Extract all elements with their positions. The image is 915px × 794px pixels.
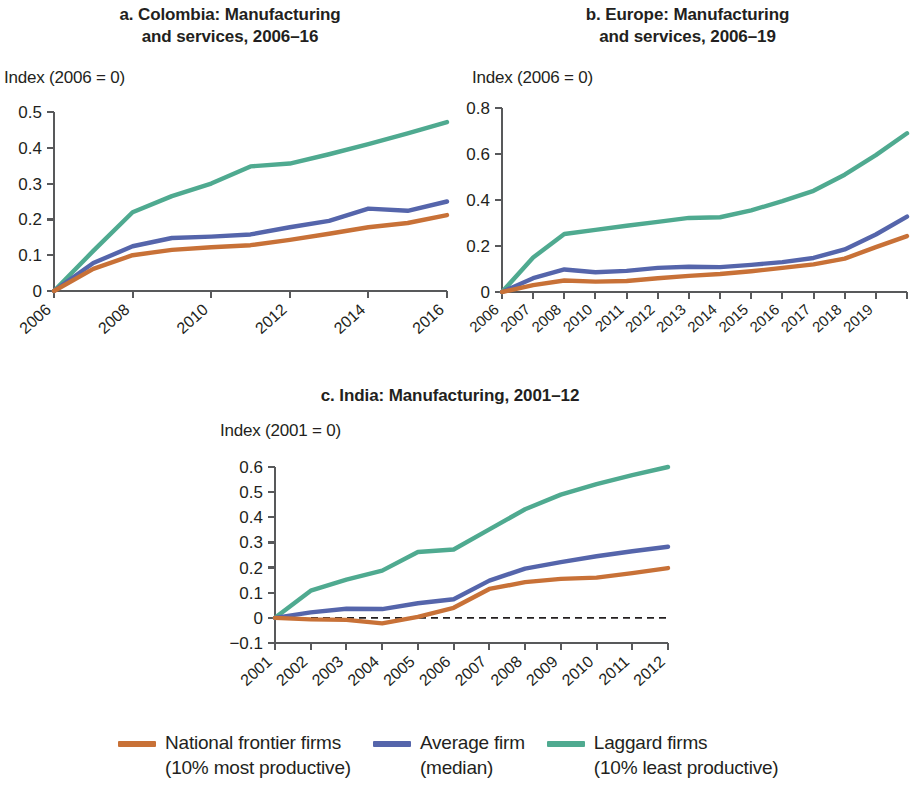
ytick-label: 0.5	[239, 483, 263, 502]
xtick-label: 2012	[622, 301, 658, 336]
xtick-label: 2011	[591, 301, 626, 335]
ytick-label: 0.5	[18, 103, 42, 122]
legend-label-frontier-sub: (10% most productive)	[165, 755, 351, 780]
ytick-label: 0.3	[18, 175, 42, 194]
xtick-label: 2011	[595, 653, 632, 689]
xtick-label: 2006	[16, 301, 54, 338]
chart-legend: National frontier firms (10% most produc…	[0, 728, 915, 794]
ytick-label: 0.6	[239, 458, 263, 477]
ytick-label: 0.6	[466, 145, 490, 164]
series-line-laggard	[54, 122, 447, 291]
xtick-label: 2012	[252, 301, 290, 338]
xtick-label: 2016	[746, 301, 782, 336]
legend-label-average-sub: (median)	[420, 755, 525, 780]
xtick-label: 2019	[840, 301, 876, 336]
legend-label-laggard-sub: (10% least productive)	[594, 755, 779, 780]
legend-item-laggard[interactable]: Laggard firms (10% least productive)	[547, 730, 779, 780]
panel-a-plot: 00.10.20.30.40.5200620082010201220142016	[0, 0, 460, 360]
ytick-label: 0.2	[18, 210, 42, 229]
legend-label-laggard-main: Laggard firms	[594, 732, 708, 753]
xtick-label: 2010	[559, 301, 595, 336]
ytick-label: 0.1	[18, 246, 42, 265]
ytick-label: 0.4	[239, 508, 263, 527]
legend-item-frontier[interactable]: National frontier firms (10% most produc…	[118, 730, 351, 780]
ytick-label: 0.2	[466, 237, 490, 256]
xtick-label: 2010	[559, 653, 597, 690]
legend-label-frontier-main: National frontier firms	[165, 732, 341, 753]
xtick-label: 2005	[380, 653, 418, 690]
legend-swatch-laggard-icon	[547, 741, 585, 747]
legend-label-frontier: National frontier firms (10% most produc…	[165, 730, 351, 780]
ytick-label: 0.2	[239, 559, 263, 578]
ytick-label: 0	[481, 283, 490, 302]
xtick-label: 2014	[331, 301, 369, 338]
xtick-label: 2014	[684, 301, 720, 336]
xtick-label: 2007	[497, 301, 533, 336]
xtick-label: 2008	[487, 653, 525, 690]
legend-label-laggard: Laggard firms (10% least productive)	[594, 730, 779, 780]
ytick-label: 0.3	[239, 533, 263, 552]
xtick-label: 2003	[309, 653, 347, 690]
legend-swatch-frontier-icon	[118, 741, 156, 747]
panel-c-plot: −0.100.10.20.30.40.50.620012002200320042…	[190, 385, 710, 715]
panel-colombia: a. Colombia: Manufacturing and services,…	[0, 0, 460, 360]
ytick-label: 0.1	[239, 584, 263, 603]
panel-b-plot: 00.20.40.60.8200620072008201020112012201…	[460, 0, 915, 360]
xtick-label: 2015	[715, 301, 751, 336]
ytick-label: 0	[33, 282, 42, 301]
figure-root: a. Colombia: Manufacturing and services,…	[0, 0, 915, 794]
xtick-label: 2007	[452, 653, 490, 690]
series-line-frontier	[502, 236, 907, 292]
legend-label-average: Average firm (median)	[420, 730, 525, 780]
xtick-label: 2004	[344, 653, 382, 690]
xtick-label: 2017	[777, 301, 813, 336]
xtick-label: 2009	[523, 653, 561, 690]
legend-swatch-average-icon	[373, 741, 411, 747]
xtick-label: 2001	[237, 653, 275, 690]
ytick-label: −0.1	[229, 634, 263, 653]
panel-europe: b. Europe: Manufacturing and services, 2…	[460, 0, 915, 360]
xtick-label: 2013	[653, 301, 689, 336]
xtick-label: 2002	[273, 653, 311, 690]
ytick-label: 0	[254, 609, 263, 628]
legend-item-average[interactable]: Average firm (median)	[373, 730, 525, 780]
xtick-label: 2006	[466, 301, 502, 336]
series-line-frontier	[275, 568, 668, 623]
legend-row: National frontier firms (10% most produc…	[118, 730, 800, 780]
series-line-laggard	[275, 467, 668, 618]
ytick-label: 0.8	[466, 99, 490, 118]
xtick-label: 2008	[528, 301, 564, 336]
xtick-label: 2010	[173, 301, 211, 338]
xtick-label: 2012	[630, 653, 668, 690]
xtick-label: 2016	[409, 301, 447, 338]
ytick-label: 0.4	[466, 191, 490, 210]
xtick-label: 2008	[95, 301, 133, 338]
panel-india: c. India: Manufacturing, 2001–12 Index (…	[190, 385, 710, 715]
ytick-label: 0.4	[18, 139, 42, 158]
xtick-label: 2018	[809, 301, 845, 336]
xtick-label: 2006	[416, 653, 454, 690]
legend-label-average-main: Average firm	[420, 732, 525, 753]
